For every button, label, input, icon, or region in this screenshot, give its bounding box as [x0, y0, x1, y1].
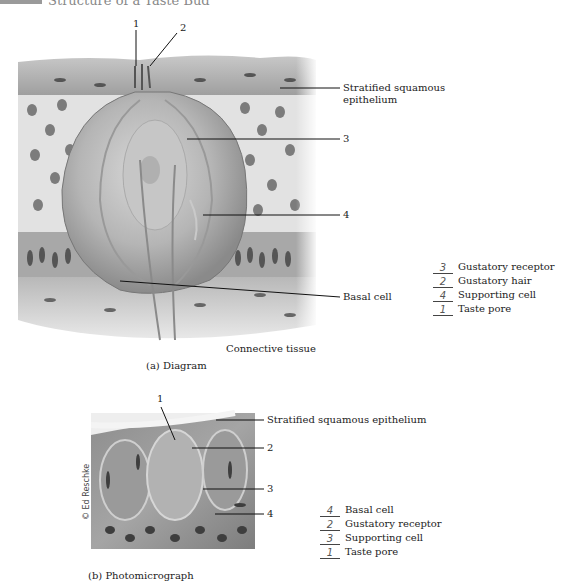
photomicrograph-image: [91, 413, 255, 549]
key-row: 1 Taste pore: [433, 302, 555, 316]
diagram-label-1: 1: [133, 18, 139, 29]
key-label: Gustatory receptor: [458, 260, 555, 274]
diagram-label-3: 3: [343, 133, 349, 144]
label-stratified-squamous: Stratified squamous: [343, 82, 445, 93]
diagram-label-2: 2: [180, 22, 186, 33]
answer-field[interactable]: 4: [320, 506, 340, 517]
photo-label-3: 3: [267, 483, 273, 494]
diagram-answer-key: 3 Gustatory receptor 2 Gustatory hair 4 …: [433, 260, 555, 316]
answer-field[interactable]: 4: [433, 291, 453, 302]
answer-field[interactable]: 3: [433, 263, 453, 274]
photo-label-2: 2: [267, 442, 273, 453]
key-row: 2 Gustatory hair: [433, 274, 555, 288]
photo-credit: © Ed Reschke: [82, 464, 91, 520]
answer-field[interactable]: 1: [320, 548, 340, 559]
photo-label-4: 4: [267, 508, 273, 519]
key-label: Supporting cell: [458, 288, 536, 302]
key-row: 3 Supporting cell: [320, 531, 442, 545]
caption-diagram: (a) Diagram: [146, 360, 207, 371]
label-connective-tissue: Connective tissue: [226, 343, 316, 354]
answer-field[interactable]: 1: [433, 305, 453, 316]
caption-photomicrograph: (b) Photomicrograph: [88, 570, 194, 581]
diagram-tissue: [18, 55, 318, 345]
answer-field[interactable]: 3: [320, 534, 340, 545]
key-label: Gustatory receptor: [345, 517, 442, 531]
key-row: 1 Taste pore: [320, 545, 442, 559]
key-row: 3 Gustatory receptor: [433, 260, 555, 274]
key-row: 4 Basal cell: [320, 503, 442, 517]
key-label: Supporting cell: [345, 531, 423, 545]
label-basal-cell: Basal cell: [343, 291, 392, 302]
answer-field[interactable]: 2: [433, 277, 453, 288]
key-row: 4 Supporting cell: [433, 288, 555, 302]
label-epithelium: epithelium: [343, 94, 397, 105]
photo-answer-key: 4 Basal cell 2 Gustatory receptor 3 Supp…: [320, 503, 442, 559]
label-stratified-squamous-epithelium: Stratified squamous epithelium: [267, 414, 426, 425]
key-label: Gustatory hair: [458, 274, 532, 288]
key-label: Basal cell: [345, 503, 394, 517]
diagram-label-4: 4: [343, 209, 349, 220]
key-label: Taste pore: [458, 302, 511, 316]
key-label: Taste pore: [345, 545, 398, 559]
photo-label-1: 1: [157, 393, 163, 404]
answer-field[interactable]: 2: [320, 520, 340, 531]
key-row: 2 Gustatory receptor: [320, 517, 442, 531]
